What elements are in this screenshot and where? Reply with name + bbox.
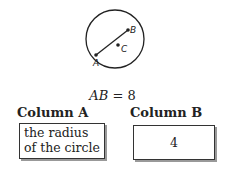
column-b-header: Column B <box>130 105 202 120</box>
column-b-box: 4 <box>133 125 215 160</box>
column-b-value: 4 <box>170 135 178 150</box>
equation-op: = <box>112 88 123 103</box>
equation-rhs: 8 <box>127 88 135 103</box>
column-a-line2: of the circle <box>24 140 104 155</box>
point-a <box>94 53 98 57</box>
equation-lhs: AB <box>89 88 108 103</box>
column-a-line1: the radius <box>24 125 104 140</box>
circle-diagram: A B C <box>83 8 148 73</box>
column-a-box: the radius of the circle <box>19 123 105 159</box>
label-c: C <box>121 44 128 54</box>
label-a: A <box>92 58 99 68</box>
given-equation: AB = 8 <box>0 88 225 103</box>
point-c <box>116 43 120 47</box>
label-b: B <box>130 25 136 35</box>
column-a-header: Column A <box>17 105 88 120</box>
